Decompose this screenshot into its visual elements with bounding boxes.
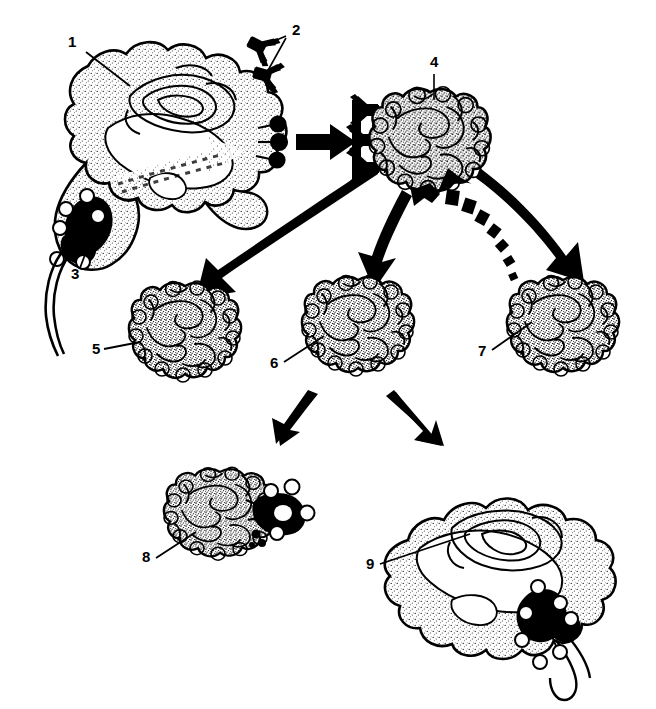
cell-7-body <box>507 275 619 376</box>
label-6: 6 <box>270 355 278 370</box>
arrow-cell7-to-cell4-dashed <box>410 168 518 281</box>
arrow-cell4-to-cell6 <box>358 190 412 290</box>
cell-6-body <box>302 275 414 376</box>
cell-4-body <box>369 87 490 196</box>
cell-9-body <box>385 498 616 700</box>
label-8: 8 <box>142 549 150 564</box>
label-5: 5 <box>92 341 100 356</box>
label-2: 2 <box>292 22 300 37</box>
arrow-cell6-to-cell8 <box>272 390 318 446</box>
arrow-cell1-to-cell4 <box>296 124 356 160</box>
label-9: 9 <box>366 556 374 571</box>
arrow-cell4-to-cell7 <box>476 168 584 282</box>
label-4: 4 <box>430 54 438 69</box>
arrow-cell6-to-cell9 <box>386 390 444 446</box>
cell-5-body <box>129 281 241 382</box>
label-1: 1 <box>68 34 76 49</box>
figure-canvas: 1 2 3 4 5 6 7 8 9 <box>0 0 656 709</box>
label-3: 3 <box>71 266 79 281</box>
label-7: 7 <box>478 343 486 358</box>
